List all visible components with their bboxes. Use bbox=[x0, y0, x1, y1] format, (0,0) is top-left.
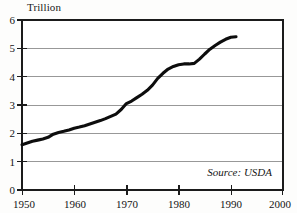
y-tick-label-3: 3 bbox=[10, 99, 16, 111]
x-tick-label-1990: 1990 bbox=[220, 198, 243, 210]
y-tick-label-4: 4 bbox=[10, 71, 16, 83]
x-tick-label-1970: 1970 bbox=[116, 198, 139, 210]
chart-figure: Trillion 0 1 bbox=[0, 0, 297, 213]
x-tick-label-1980: 1980 bbox=[168, 198, 191, 210]
x-tick-labels: 1950 1960 1970 1980 1990 2000 bbox=[13, 198, 292, 210]
x-tick-label-1950: 1950 bbox=[13, 198, 36, 210]
y-tick-labels: 0 1 2 3 4 5 6 bbox=[10, 14, 16, 196]
y-tick-label-1: 1 bbox=[10, 156, 16, 168]
source-annotation: Source: USDA bbox=[207, 166, 272, 178]
y-tick-label-2: 2 bbox=[10, 127, 16, 139]
y-tick-label-5: 5 bbox=[10, 42, 16, 54]
line-chart-canvas: 0 1 2 3 4 5 6 1950 1960 1970 1980 1990 2… bbox=[0, 0, 297, 213]
y-tick-label-6: 6 bbox=[10, 14, 16, 26]
y-tick-label-0: 0 bbox=[10, 184, 16, 196]
x-tick-label-2000: 2000 bbox=[269, 198, 292, 210]
x-tick-label-1960: 1960 bbox=[64, 198, 87, 210]
